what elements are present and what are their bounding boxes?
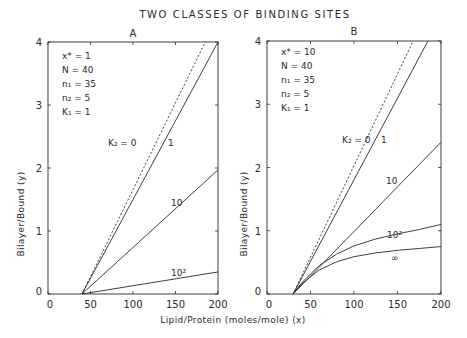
curve-label-k2-0: K₂ = 0 [108, 138, 137, 148]
panel-a-label: A [130, 28, 137, 39]
panel-b-parameters: x* = 10 N = 40 n₁ = 35 n₂ = 5 K₁ = 1 [281, 47, 316, 113]
y-tick-label: 1 [255, 226, 261, 237]
y-tick-label: 0 [36, 286, 42, 297]
curve-k2-0 [82, 42, 205, 294]
curve-label-10: 10 [171, 198, 183, 208]
panel-a-parameters: x* = 1 N = 40 n₁ = 35 n₂ = 5 K₁ = 1 [62, 51, 96, 117]
y-tick-label: 4 [255, 36, 261, 47]
y-axis-label-b: Bilayer/Bound (y) [239, 171, 249, 256]
param-k1: K₁ = 1 [62, 107, 91, 117]
x-tick-label: 50 [304, 299, 317, 310]
binding-sites-figure: TWO CLASSES OF BINDING SITES A 050100150… [0, 0, 467, 338]
y-tick-label: 0 [255, 286, 261, 297]
panel-a-curves [82, 42, 218, 294]
param-n: N = 40 [281, 61, 313, 71]
curve-label-infinity: ∞ [391, 253, 399, 263]
x-tick-label: 0 [47, 299, 53, 310]
curve-label-k2-0: K₂ = 0 [342, 135, 371, 145]
x-tick-label: 100 [344, 299, 363, 310]
x-tick-label: 150 [388, 299, 407, 310]
curve-label-100: 10² [387, 230, 402, 240]
x-tick-label: 0 [266, 299, 272, 310]
panel-b-curves [293, 41, 441, 294]
curve-10 [293, 142, 441, 294]
curve-label-100: 10² [171, 268, 186, 278]
x-axis-label: Lipid/Protein (moles/mole) (x) [160, 315, 305, 325]
y-tick-label: 1 [36, 226, 42, 237]
y-tick-label: 2 [36, 163, 42, 174]
y-tick-label: 3 [255, 99, 261, 110]
curve-- [293, 247, 441, 294]
x-tick-label: 200 [431, 299, 450, 310]
y-tick-label: 2 [255, 163, 261, 174]
param-n: N = 40 [62, 65, 94, 75]
param-n2: n₂ = 5 [62, 93, 90, 103]
y-axis-label-a: Bilayer/Bound (y) [16, 171, 26, 256]
param-n1: n₁ = 35 [281, 75, 315, 85]
y-tick-label: 3 [36, 100, 42, 111]
figure-title: TWO CLASSES OF BINDING SITES [138, 9, 350, 20]
curve-10-2 [293, 224, 441, 294]
param-n2: n₂ = 5 [281, 89, 309, 99]
param-k1: K₁ = 1 [281, 103, 310, 113]
x-tick-label: 200 [208, 299, 227, 310]
x-tick-label: 150 [166, 299, 185, 310]
panel-a: A 050100150200 01234 x* = 1 N = 40 n₁ = … [36, 28, 228, 310]
param-xstar: x* = 10 [281, 47, 316, 57]
panel-a-y-ticks: 01234 [36, 37, 218, 297]
y-tick-label: 4 [36, 37, 42, 48]
curve-label-10: 10 [386, 176, 398, 186]
panel-b-label: B [351, 26, 358, 37]
curve-1 [82, 42, 218, 294]
x-tick-label: 100 [123, 299, 142, 310]
param-xstar: x* = 1 [62, 51, 91, 61]
param-n1: n₁ = 35 [62, 79, 96, 89]
curve-label-1: 1 [168, 138, 174, 148]
curve-label-1: 1 [381, 135, 387, 145]
panel-b: B 050100150200 01234 x* = 10 N = 40 n₁ =… [255, 26, 451, 310]
x-tick-label: 50 [84, 299, 97, 310]
